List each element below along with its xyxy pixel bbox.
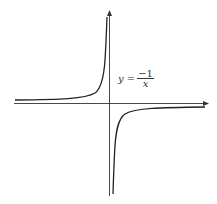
y-axis-arrow-icon: [107, 10, 112, 16]
curve-quadrant-4: [113, 107, 205, 194]
curve-quadrant-2: [15, 17, 107, 100]
x-axis: [14, 101, 209, 106]
denominator: x: [143, 79, 149, 88]
label-lhs: y =: [118, 73, 135, 84]
y-axis: [107, 10, 112, 196]
x-axis-arrow-icon: [203, 101, 209, 106]
function-label: y = −1 x: [118, 69, 154, 88]
fraction: −1 x: [137, 69, 154, 88]
chart-canvas: [0, 0, 217, 204]
